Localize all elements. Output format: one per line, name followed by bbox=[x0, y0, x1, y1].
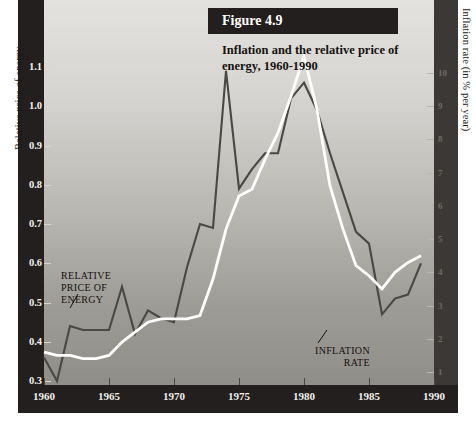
figure-badge-label: Figure 4.9 bbox=[222, 13, 282, 29]
series-line-relative-price bbox=[44, 71, 421, 381]
annotation-relative-line3: ENERGY bbox=[61, 294, 111, 306]
figure-title: Inflation and the relative price of ener… bbox=[222, 42, 408, 74]
figure-container: Relative price of energy Inflation rate … bbox=[0, 0, 476, 423]
leader-inflation-rate bbox=[318, 330, 327, 343]
annotation-inflation-rate: INFLATION RATE bbox=[315, 345, 370, 369]
annotation-inflation-line2: RATE bbox=[315, 357, 370, 369]
series-line-inflation-rate bbox=[44, 56, 421, 358]
annotation-relative-line1: RELATIVE bbox=[61, 270, 111, 282]
annotation-inflation-line1: INFLATION bbox=[315, 345, 370, 357]
annotation-relative-price: RELATIVE PRICE OF ENERGY bbox=[61, 270, 111, 306]
annotation-relative-line2: PRICE OF bbox=[61, 282, 111, 294]
figure-badge: Figure 4.9 bbox=[208, 8, 398, 34]
